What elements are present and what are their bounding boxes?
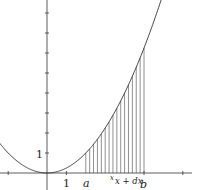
integral-diagram: 1 1 a x x + dx b [0,0,197,190]
area-strips [86,48,144,173]
parabola-curve [0,0,191,173]
b-label: b [140,178,147,190]
x-label: x [110,174,114,182]
x-plus-dx-label: x + dx [115,176,143,186]
x-unit-label: 1 [63,177,70,190]
a-label: a [83,177,90,190]
y-unit-label: 1 [36,148,43,161]
